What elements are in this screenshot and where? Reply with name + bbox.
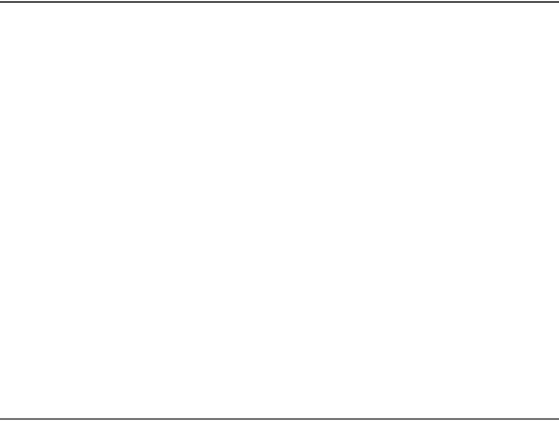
diagram-frame	[0, 0, 559, 421]
tile-routing-diagram	[0, 0, 559, 421]
